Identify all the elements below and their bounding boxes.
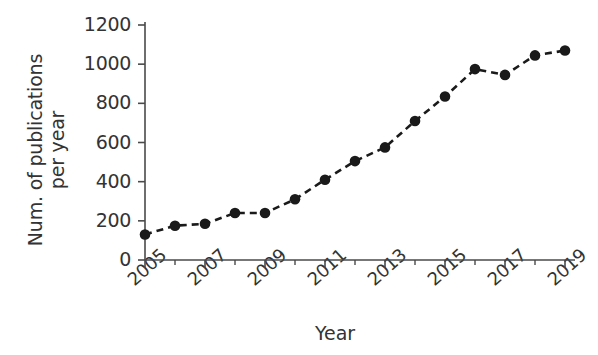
data-point-marker: [560, 45, 571, 56]
data-point-marker: [440, 91, 451, 102]
x-axis-ticks: [145, 260, 565, 268]
data-point-markers: [140, 45, 571, 240]
data-point-marker: [140, 229, 151, 240]
plot-area: [0, 0, 598, 355]
data-point-marker: [170, 220, 181, 231]
data-point-marker: [470, 64, 481, 75]
y-axis-ticks: [138, 25, 145, 260]
data-point-marker: [230, 208, 241, 219]
data-point-marker: [290, 194, 301, 205]
data-point-marker: [260, 208, 271, 219]
data-point-marker: [410, 116, 421, 127]
data-point-marker: [500, 70, 511, 81]
data-point-marker: [350, 156, 361, 167]
chart-figure: Num. of publications per year Year 02004…: [0, 0, 598, 355]
data-point-marker: [320, 174, 331, 185]
data-point-marker: [200, 219, 211, 230]
data-point-marker: [380, 142, 391, 153]
data-point-marker: [530, 50, 541, 61]
